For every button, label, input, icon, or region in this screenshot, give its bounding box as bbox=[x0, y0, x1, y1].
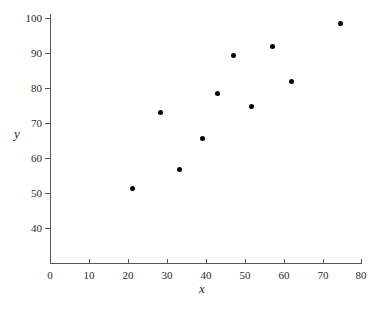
data-point bbox=[338, 21, 343, 26]
data-point bbox=[270, 44, 275, 49]
data-point bbox=[177, 167, 182, 172]
data-point bbox=[200, 136, 205, 141]
data-point bbox=[249, 104, 254, 109]
data-point bbox=[215, 91, 220, 96]
data-point bbox=[231, 53, 236, 58]
data-point bbox=[130, 186, 135, 191]
data-point bbox=[289, 79, 294, 84]
data-point bbox=[158, 110, 163, 115]
scatter-plot-figure: 100 90 80 70 60 50 40 0 10 20 30 40 50 6… bbox=[0, 0, 378, 311]
data-points-layer bbox=[0, 0, 378, 311]
